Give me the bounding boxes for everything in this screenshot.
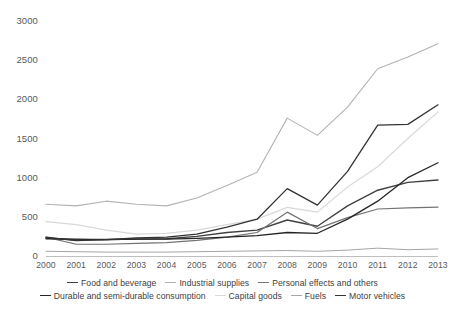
legend-item[interactable]: Durable and semi-durable consumption: [40, 291, 206, 301]
series-line: [46, 112, 438, 234]
legend-line-swatch: [215, 295, 226, 296]
legend-line-swatch: [335, 295, 346, 296]
legend-label: Fuels: [305, 291, 326, 301]
legend-line-swatch: [165, 282, 176, 283]
legend-label: Motor vehicles: [349, 291, 405, 301]
legend-label: Capital goods: [229, 291, 282, 301]
legend-item[interactable]: Industrial supplies: [165, 278, 249, 288]
series-line: [46, 207, 438, 244]
legend-item[interactable]: Capital goods: [215, 291, 282, 301]
legend: Food and beverageIndustrial suppliesPers…: [0, 276, 445, 302]
legend-label: Food and beverage: [81, 278, 156, 288]
series-lines: [46, 44, 438, 252]
legend-item[interactable]: Personal effects and others: [258, 278, 378, 288]
legend-label: Durable and semi-durable consumption: [54, 291, 206, 301]
legend-label: Industrial supplies: [179, 278, 249, 288]
series-line: [46, 248, 438, 252]
legend-row-1: Food and beverageIndustrial suppliesPers…: [0, 276, 445, 289]
legend-line-swatch: [258, 282, 269, 283]
series-line: [46, 105, 438, 241]
legend-line-swatch: [291, 295, 302, 296]
legend-item[interactable]: Food and beverage: [67, 278, 156, 288]
legend-item[interactable]: Motor vehicles: [335, 291, 405, 301]
legend-item[interactable]: Fuels: [291, 291, 326, 301]
legend-line-swatch: [67, 282, 78, 283]
series-line: [46, 180, 438, 240]
legend-row-2: Durable and semi-durable consumptionCapi…: [0, 289, 445, 302]
legend-line-swatch: [40, 295, 51, 296]
legend-label: Personal effects and others: [272, 278, 378, 288]
